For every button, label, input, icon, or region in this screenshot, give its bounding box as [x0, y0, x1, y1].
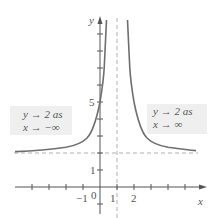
y-axis-arrow-icon [98, 16, 103, 24]
right-annotation-line1: y → 2 as [152, 105, 192, 117]
y-tick-label-1: 1 [90, 164, 96, 176]
y-axis-label: y [88, 14, 94, 26]
x-tick-label-neg1: −1 [76, 192, 88, 204]
x-tick-label-2: 2 [131, 192, 137, 204]
chart-plot: y x 5 1 0 −1 1 2 y → 2 as x → −∞ y → 2 a… [0, 0, 210, 218]
left-annotation-line1: y → 2 as [22, 108, 62, 120]
right-annotation-line2: x → ∞ [152, 118, 182, 130]
x-tick-label-1: 1 [110, 192, 116, 204]
x-axis-arrow-icon [199, 185, 207, 190]
left-annotation-line2: x → −∞ [22, 121, 60, 133]
x-axis-label: x [197, 195, 203, 207]
origin-label: 0 [91, 189, 97, 201]
y-tick-label-5: 5 [89, 96, 95, 108]
